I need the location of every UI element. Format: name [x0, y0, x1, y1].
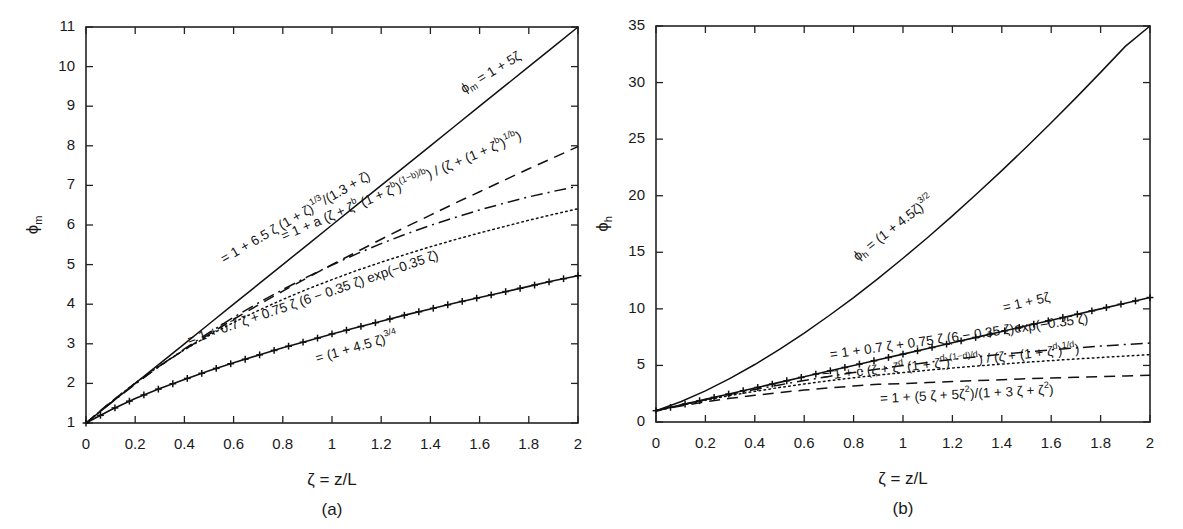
x-tick-label: 1.4 [991, 434, 1012, 451]
y-tick-label: 9 [67, 96, 75, 113]
x-tick-label: 1 [899, 434, 907, 451]
x-tick-label: 1.2 [371, 435, 392, 452]
x-tick-label: 0.8 [272, 435, 293, 452]
y-tick-label: 5 [67, 255, 75, 272]
svg-text:= 1 + a (ζ + ζb (1 + ζb)(1−b)/: = 1 + a (ζ + ζb (1 + ζb)(1−b)/b) / (ζ + … [278, 126, 523, 243]
x-tick-label: 0.2 [125, 435, 146, 452]
y-tick-label: 11 [59, 17, 75, 34]
x-axis-label: ζ = z/L [307, 470, 357, 489]
x-tick-label: 1.4 [420, 435, 441, 452]
x-tick-label: 0.2 [695, 434, 716, 451]
x-tick-label: 0.4 [744, 434, 765, 451]
y-tick-label: 20 [628, 186, 645, 203]
x-axis-label: ζ = z/L [878, 469, 928, 488]
x-tick-label: 0.6 [223, 435, 244, 452]
panel-a-plot: 00.20.40.60.811.21.41.61.821234567891011… [0, 0, 600, 529]
x-tick-label: 0 [652, 434, 660, 451]
y-tick-label: 3 [67, 334, 75, 351]
panel-a: 00.20.40.60.811.21.41.61.821234567891011… [0, 0, 600, 529]
panel-b-plot: 00.20.40.60.811.21.41.61.820510152025303… [600, 0, 1183, 529]
x-tick-label: 2 [1146, 434, 1154, 451]
y-tick-label: 35 [628, 16, 645, 33]
x-tick-label: 0 [82, 435, 90, 452]
svg-text:= 1 + 6.5 ζ (1 + ζ)1/3/(1.3 +: = 1 + 6.5 ζ (1 + ζ)1/3/(1.3 + ζ) [217, 166, 373, 265]
x-tick-label: 1.2 [942, 434, 963, 451]
x-tick-label: 1.6 [469, 435, 490, 452]
y-tick-label: 10 [58, 57, 75, 74]
svg-text:= (1 + 4.5 ζ)3/4: = (1 + 4.5 ζ)3/4 [313, 326, 399, 365]
curve-a-0 [86, 27, 578, 423]
y-tick-label: 1 [67, 413, 75, 430]
x-tick-label: 0.4 [174, 435, 195, 452]
y-tick-label: 25 [628, 129, 645, 146]
x-tick-label: 2 [574, 435, 582, 452]
x-tick-label: 0.8 [843, 434, 864, 451]
figure-root: 00.20.40.60.811.21.41.61.821234567891011… [0, 0, 1183, 529]
annot-general-a-b: = 1 + a (ζ + ζb (1 + ζb)(1−b)/b) / (ζ + … [278, 126, 523, 243]
y-tick-label: 6 [67, 215, 75, 232]
annot-phih-power: ϕh = (1 + 4.5ζ)3/2 [849, 190, 937, 265]
y-tick-label: 2 [67, 373, 75, 390]
y-tick-label: 15 [628, 242, 645, 259]
annot-linear-5zeta: = 1 + 5ζ [1001, 289, 1051, 314]
x-tick-label: 0.6 [794, 434, 815, 451]
x-tick-label: 1.8 [1090, 434, 1111, 451]
y-axis-label: ϕm [23, 216, 43, 235]
y-tick-label: 8 [67, 136, 75, 153]
annot-businger-dyer: = 1 + 6.5 ζ (1 + ζ)1/3/(1.3 + ζ) [217, 166, 373, 265]
curve-a-2 [86, 209, 578, 423]
svg-text:= 1 + 5ζ: = 1 + 5ζ [1001, 289, 1051, 314]
y-tick-label: 10 [628, 299, 645, 316]
x-tick-label: 1.8 [518, 435, 539, 452]
panel-label: (b) [893, 499, 914, 518]
y-tick-label: 7 [67, 175, 75, 192]
y-tick-label: 5 [637, 355, 645, 372]
y-tick-label: 30 [628, 73, 645, 90]
annot-rational: = 1 + (5 ζ + 5ζ2)/(1 + 3 ζ + ζ2) [879, 380, 1053, 406]
svg-text:ϕm: ϕm [23, 216, 43, 235]
annot-cheng-brutsaert: = (1 + 4.5 ζ)3/4 [313, 326, 399, 365]
panel-label: (a) [322, 500, 343, 519]
panel-b: 00.20.40.60.811.21.41.61.820510152025303… [600, 0, 1183, 529]
x-tick-label: 1 [328, 435, 336, 452]
y-tick-label: 0 [637, 412, 645, 429]
y-tick-label: 4 [67, 294, 75, 311]
svg-text:= 1 + (5 ζ + 5ζ2)/(1 + 3 ζ + ζ: = 1 + (5 ζ + 5ζ2)/(1 + 3 ζ + ζ2) [879, 380, 1053, 406]
svg-text:ϕm = 1 + 5ζ: ϕm = 1 + 5ζ [458, 48, 524, 97]
x-tick-label: 1.6 [1041, 434, 1062, 451]
svg-text:ϕh = (1 + 4.5ζ)3/2: ϕh = (1 + 4.5ζ)3/2 [849, 190, 937, 265]
annot-phim-linear: ϕm = 1 + 5ζ [458, 48, 524, 97]
